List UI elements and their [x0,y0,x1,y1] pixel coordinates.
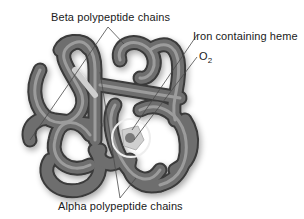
hemoglobin-diagram: Beta polypeptide chains Iron containing … [0,0,304,219]
beta-chain-label: Beta polypeptide chains [51,11,170,23]
alpha-chain-label: Alpha polypeptide chains [58,200,183,212]
o2-main: O [199,50,208,62]
o2-subscript: 2 [208,56,213,65]
o2-label: O2 [199,50,212,62]
heme-label: Iron containing heme [193,30,298,42]
protein-tubes [29,41,192,190]
